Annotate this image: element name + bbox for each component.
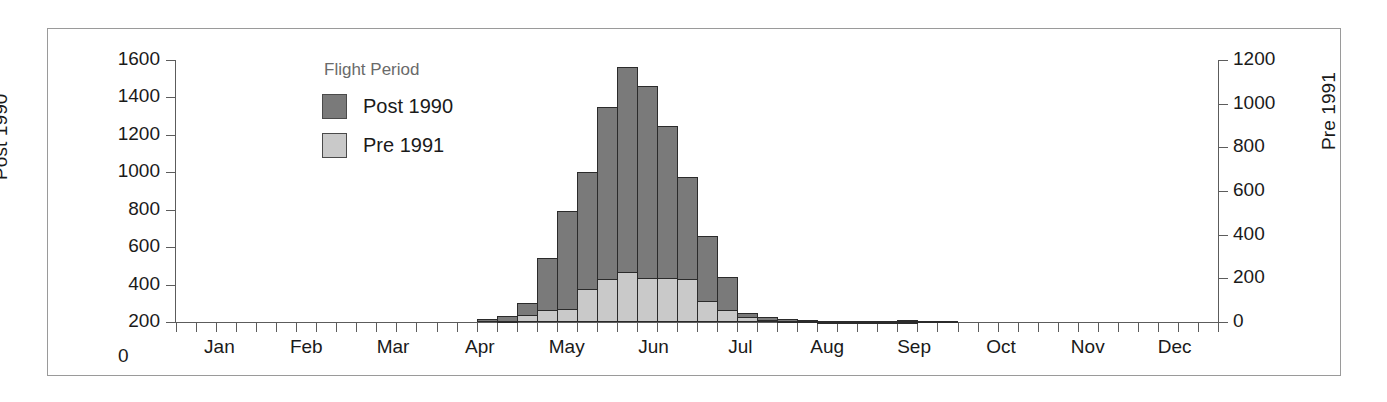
right-axis-tick	[1219, 278, 1228, 279]
right-axis-tick	[1219, 104, 1228, 105]
bar-pre-1991	[557, 309, 578, 322]
bar-pre-1991	[517, 315, 538, 322]
x-axis-month-label: May	[527, 336, 607, 358]
left-axis-tick-label: 200	[82, 310, 160, 332]
x-axis-tick	[477, 323, 478, 332]
bar-pre-1991	[717, 310, 738, 322]
left-axis-tick-label: 400	[82, 273, 160, 295]
x-axis-month-label: Apr	[440, 336, 520, 358]
bar-pre-1991	[537, 310, 558, 322]
x-axis-tick	[817, 323, 818, 332]
x-axis-tick	[196, 323, 197, 332]
bar-pre-1991	[897, 322, 918, 324]
bar-pre-1991	[577, 289, 598, 322]
x-axis-tick	[376, 323, 377, 332]
x-axis-month-label: Feb	[266, 336, 346, 358]
x-axis-tick	[697, 323, 698, 332]
right-axis-tick-label: 1200	[1233, 48, 1275, 70]
right-axis-tick	[1219, 322, 1228, 323]
x-axis-tick	[577, 323, 578, 332]
left-axis-tick	[166, 285, 175, 286]
x-axis-tick	[757, 323, 758, 332]
x-axis-tick	[937, 323, 938, 332]
x-axis-tick	[236, 323, 237, 332]
left-axis-tick-label: 1400	[82, 85, 160, 107]
x-axis-tick	[777, 323, 778, 332]
left-axis-zero-label: 0	[118, 345, 129, 367]
right-axis-tick-label: 1000	[1233, 92, 1275, 114]
bar-pre-1991	[737, 317, 758, 322]
bar-post-1990	[477, 319, 498, 322]
right-axis-tick	[1219, 191, 1228, 192]
left-axis-tick	[166, 247, 175, 248]
right-axis-tick-label: 400	[1233, 223, 1265, 245]
x-axis-tick	[296, 323, 297, 332]
x-axis-tick	[677, 323, 678, 332]
left-axis-tick	[166, 322, 175, 323]
x-axis-month-label: Jul	[700, 336, 780, 358]
bar-pre-1991	[777, 321, 798, 323]
x-axis-tick	[637, 323, 638, 332]
legend-title: Flight Period	[324, 60, 552, 80]
legend-item[interactable]: Pre 1991	[322, 133, 552, 158]
x-axis-tick	[356, 323, 357, 332]
left-axis-tick	[166, 135, 175, 136]
x-axis-tick	[437, 323, 438, 332]
x-axis-month-label: Sep	[874, 336, 954, 358]
x-axis-tick	[1178, 323, 1179, 332]
x-axis-tick	[1118, 323, 1119, 332]
x-axis-tick	[877, 323, 878, 332]
legend: Flight Period Post 1990Pre 1991	[322, 60, 552, 172]
x-axis-tick	[737, 323, 738, 332]
x-axis-tick	[336, 323, 337, 332]
bar-pre-1991	[657, 278, 678, 322]
x-axis-tick	[797, 323, 798, 332]
legend-item-label: Post 1990	[363, 95, 453, 118]
x-axis-tick	[1058, 323, 1059, 332]
x-axis-tick	[617, 323, 618, 332]
x-axis-month-label: Nov	[1048, 336, 1128, 358]
right-axis-tick	[1219, 60, 1228, 61]
bar-pre-1991	[497, 321, 518, 323]
bar-pre-1991	[597, 279, 618, 322]
x-axis-tick	[316, 323, 317, 332]
bar-pre-1991	[857, 322, 878, 324]
x-axis-tick	[1078, 323, 1079, 332]
legend-items: Post 1990Pre 1991	[322, 94, 552, 158]
bar-pre-1991	[637, 278, 658, 322]
bar-post-1990	[937, 321, 958, 323]
x-axis-tick	[1018, 323, 1019, 332]
x-axis-month-label: Jun	[614, 336, 694, 358]
left-axis-tick	[166, 210, 175, 211]
left-axis-title: Post 1990	[0, 94, 12, 180]
x-axis-tick	[1158, 323, 1159, 332]
bar-pre-1991	[757, 320, 778, 322]
right-axis-tick-label: 800	[1233, 135, 1265, 157]
x-axis-tick	[216, 323, 217, 332]
left-axis-tick	[166, 97, 175, 98]
x-axis-tick	[276, 323, 277, 332]
bar-pre-1991	[617, 272, 638, 322]
bar-post-1990	[917, 321, 938, 323]
x-axis-tick	[657, 323, 658, 332]
x-axis-tick	[537, 323, 538, 332]
x-axis-tick	[1038, 323, 1039, 332]
x-axis-tick	[457, 323, 458, 332]
x-axis-tick	[857, 323, 858, 332]
x-axis-month-label: Aug	[787, 336, 867, 358]
bar-pre-1991	[817, 322, 838, 324]
right-axis-title: Pre 1991	[1318, 72, 1340, 150]
bar-pre-1991	[877, 322, 898, 324]
bar-post-1990	[557, 211, 578, 322]
x-axis-tick	[1098, 323, 1099, 332]
x-axis-month-label: Oct	[961, 336, 1041, 358]
right-axis-tick	[1219, 235, 1228, 236]
legend-item[interactable]: Post 1990	[322, 94, 552, 119]
x-axis-tick	[1218, 323, 1219, 332]
right-axis-tick-label: 0	[1233, 310, 1244, 332]
x-axis-month-label: Mar	[353, 336, 433, 358]
x-axis-tick	[897, 323, 898, 332]
left-axis-line	[175, 60, 176, 323]
left-axis-tick-label: 1000	[82, 160, 160, 182]
bar-pre-1991	[837, 322, 858, 324]
